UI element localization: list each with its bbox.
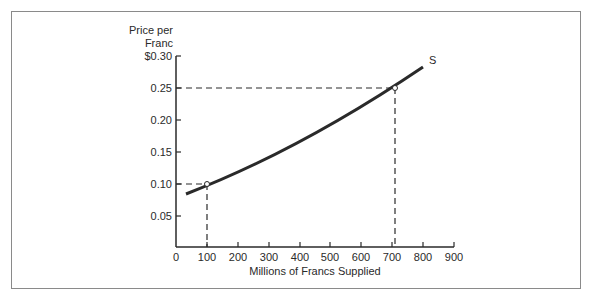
dashed-guides	[176, 88, 395, 247]
y-tick-label: 0.10	[122, 178, 172, 190]
y-tick-label: 0.25	[122, 82, 172, 94]
y-tick-label: 0.15	[122, 146, 172, 158]
x-axis-label: Millions of Francs Supplied	[195, 265, 435, 277]
x-tick-label: 500	[315, 251, 345, 263]
y-tick-label: $0.30	[122, 50, 172, 62]
x-tick-label: 700	[377, 251, 407, 263]
x-tick-label: 600	[346, 251, 376, 263]
point-700-025	[393, 86, 398, 91]
x-tick-label: 900	[439, 251, 469, 263]
y-axis-label: Price per Franc	[115, 24, 173, 50]
supply-curve	[186, 67, 423, 194]
curve-label-s: S	[429, 54, 436, 66]
y-tick-label: 0.20	[122, 114, 172, 126]
x-tick-label: 300	[254, 251, 284, 263]
y-tick-label: 0.05	[122, 210, 172, 222]
x-tick-label: 200	[223, 251, 253, 263]
x-tick-label: 100	[192, 251, 222, 263]
point-100-010	[205, 182, 210, 187]
x-tick-label: 400	[285, 251, 315, 263]
y-axis-label-line1: Price per	[115, 24, 173, 37]
x-tick-label: 0	[161, 251, 191, 263]
y-axis-label-line2: Franc	[115, 37, 173, 50]
x-tick-label: 800	[408, 251, 438, 263]
